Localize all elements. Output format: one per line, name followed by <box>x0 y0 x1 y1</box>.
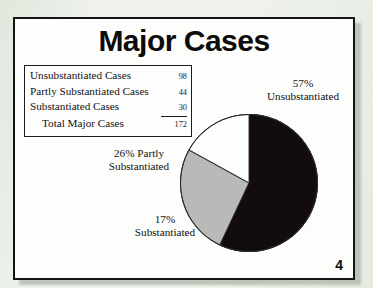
table-row-value: 98 <box>161 70 187 85</box>
pie-label-substantiated-percent: 17% <box>119 213 211 226</box>
presentation-slide: Major Cases Unsubstantiated Cases 98 Par… <box>13 17 355 280</box>
pie-label-partly-substantiated: 26% Partly Substantiated <box>89 147 189 173</box>
pie-label-partly-line2: Substantiated <box>89 160 189 173</box>
page-title: Major Cases <box>15 24 353 58</box>
table-row-label: Substantiated Cases <box>30 100 161 114</box>
table-row: Substantiated Cases 30 <box>30 100 187 117</box>
pie-label-substantiated: 17% Substantiated <box>119 213 211 239</box>
pie-label-unsubstantiated-name: Unsubstantiated <box>251 90 355 103</box>
summary-table: Unsubstantiated Cases 98 Partly Substant… <box>24 65 192 137</box>
pie-label-substantiated-name: Substantiated <box>119 226 211 239</box>
table-row-label: Unsubstantiated Cases <box>30 69 161 83</box>
pie-label-unsubstantiated-percent: 57% <box>251 77 355 90</box>
pie-label-unsubstantiated: 57% Unsubstantiated <box>251 77 355 103</box>
table-row: Unsubstantiated Cases 98 <box>30 69 187 85</box>
pie-label-partly-line1: 26% Partly <box>89 147 189 160</box>
pie-slice-divider <box>248 114 249 183</box>
table-total-row: Total Major Cases 172 <box>30 117 187 133</box>
page-number: 4 <box>335 257 343 273</box>
table-row-label: Partly Substantiated Cases <box>30 85 161 99</box>
table-row: Partly Substantiated Cases 44 <box>30 85 187 101</box>
table-row-value: 44 <box>161 86 187 101</box>
table-total-label: Total Major Cases <box>30 117 161 131</box>
